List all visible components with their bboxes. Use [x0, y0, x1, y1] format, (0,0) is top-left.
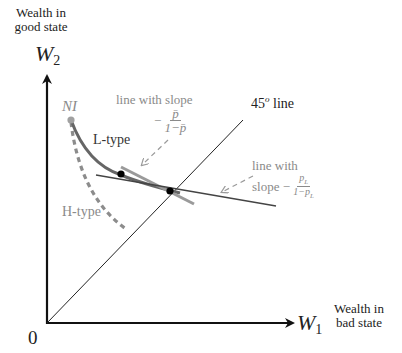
- y-axis-variable: W2: [35, 42, 60, 68]
- pbar-slope-formula: − p̄ 1−p̄: [116, 107, 193, 135]
- x-axis-description-line2: bad state: [330, 316, 388, 330]
- pl-line-text: line with: [252, 159, 314, 173]
- pl-slope-formula: slope − pL 1−pL: [252, 173, 314, 200]
- origin-label: 0: [28, 328, 38, 349]
- pl-line-label: line with slope − pL 1−pL: [252, 159, 314, 201]
- y-axis-description-line1: Wealth in: [8, 6, 74, 20]
- y-axis-description-line2: good state: [8, 20, 74, 34]
- pbar-line-text: line with slope: [116, 93, 193, 107]
- pl-pointer-arrow: [222, 176, 253, 192]
- pl-fraction: pL 1−pL: [293, 173, 314, 200]
- pbar-pointer-arrow: [142, 140, 168, 165]
- y-axis-description: Wealth in good state: [8, 6, 74, 35]
- h-type-label: H-type: [62, 204, 101, 219]
- l-type-tangency-point: [117, 170, 124, 177]
- ni-label: NI: [62, 98, 77, 115]
- x-axis-description: Wealth in bad state: [330, 302, 388, 331]
- pbar-fraction: p̄ 1−p̄: [165, 107, 187, 135]
- x-axis-description-line1: Wealth in: [330, 302, 388, 316]
- ni-point: [67, 116, 74, 123]
- x-axis-variable: W1: [297, 311, 322, 337]
- intersection-point: [166, 187, 173, 194]
- pbar-line-label: line with slope − p̄ 1−p̄: [116, 93, 193, 135]
- line-45-label: 45o line: [251, 95, 294, 111]
